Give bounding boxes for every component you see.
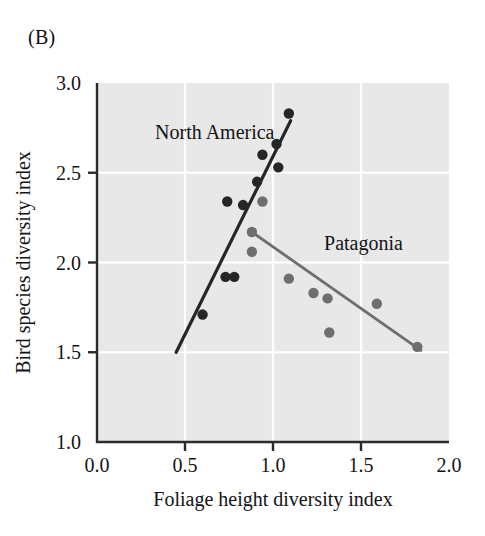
data-point: [284, 108, 294, 118]
data-point: [197, 309, 207, 319]
figure-panel-b: (B) 1.01.52.02.53.00.00.51.01.52.0Foliag…: [0, 0, 485, 536]
x-axis-tick-label: 1.0: [261, 454, 286, 476]
y-axis-tick-label: 2.0: [56, 252, 81, 274]
x-axis-title: Foliage height diversity index: [153, 488, 392, 511]
data-point: [247, 227, 257, 237]
data-point: [229, 272, 239, 282]
data-point: [284, 273, 294, 283]
data-point: [247, 247, 257, 257]
data-point: [222, 196, 232, 206]
data-point: [257, 150, 267, 160]
data-point: [324, 327, 334, 337]
data-point: [308, 288, 318, 298]
y-axis-tick-label: 3.0: [56, 72, 81, 94]
data-point: [412, 342, 422, 352]
y-axis-tick-label: 1.5: [56, 341, 81, 363]
series-label: North America: [155, 121, 275, 143]
y-axis-title: Bird species diversity index: [12, 151, 35, 374]
scatter-plot: 1.01.52.02.53.00.00.51.01.52.0Foliage he…: [0, 0, 485, 536]
data-point: [257, 196, 267, 206]
data-point: [372, 299, 382, 309]
x-axis-tick-label: 2.0: [437, 454, 462, 476]
data-point: [238, 200, 248, 210]
data-point: [322, 293, 332, 303]
y-axis-tick-label: 1.0: [56, 431, 81, 453]
x-axis-tick-label: 1.5: [349, 454, 374, 476]
x-axis-tick-label: 0.5: [173, 454, 198, 476]
x-axis-tick-label: 0.0: [85, 454, 110, 476]
y-axis-tick-label: 2.5: [56, 162, 81, 184]
series-label: Patagonia: [324, 232, 403, 255]
data-point: [252, 177, 262, 187]
data-point: [273, 162, 283, 172]
